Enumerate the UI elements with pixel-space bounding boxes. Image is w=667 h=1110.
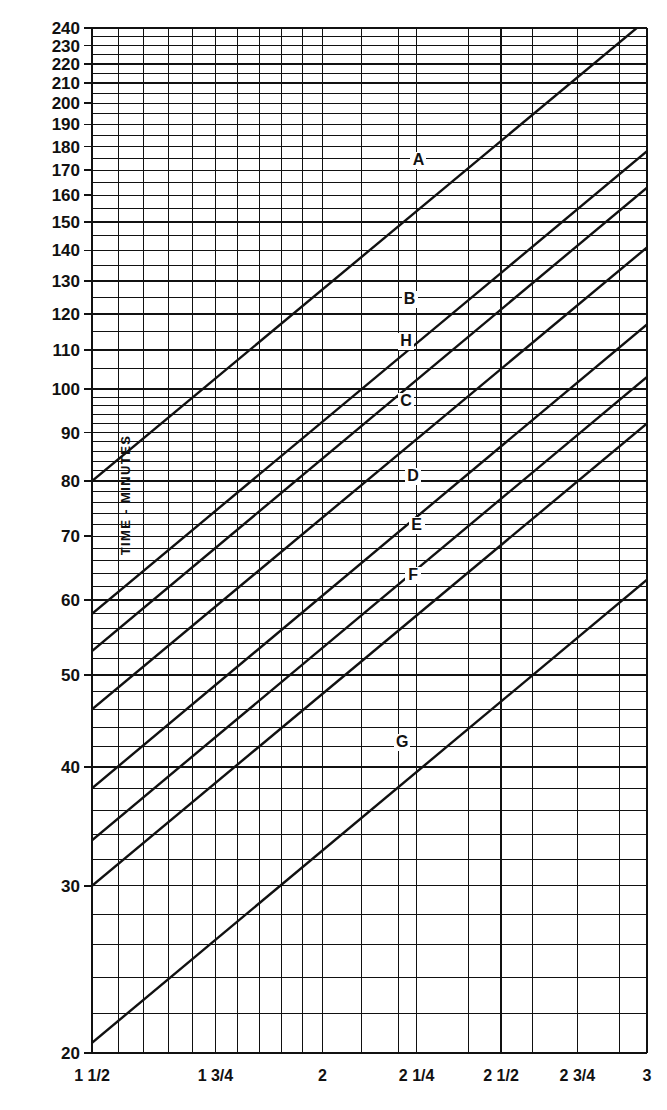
y-tick-label: 140 (52, 241, 80, 260)
y-axis: 2402302202102001901801701601501401301201… (52, 19, 92, 1063)
series-line-C (92, 247, 647, 709)
y-tick-label: 230 (52, 37, 80, 56)
y-tick-label: 50 (61, 666, 80, 685)
y-tick-label: 220 (52, 55, 80, 74)
y-tick-label: 90 (61, 424, 80, 443)
x-tick-label: 1 1/2 (74, 1067, 110, 1084)
series-label-E: E (411, 516, 422, 533)
chart-figure: 2402302202102001901801701601501401301201… (0, 0, 667, 1110)
series-label-B: B (404, 290, 416, 307)
y-tick-label: 60 (61, 591, 80, 610)
y-tick-label: 180 (52, 138, 80, 157)
y-tick-label: 40 (61, 758, 80, 777)
series-label-D: D (407, 467, 419, 484)
x-tick-label: 2 3/4 (560, 1067, 596, 1084)
y-tick-label: 20 (61, 1044, 80, 1063)
y-tick-label: 190 (52, 115, 80, 134)
series-label-C: C (400, 392, 412, 409)
y-tick-label: 70 (61, 527, 80, 546)
series-line-F (92, 424, 647, 886)
series-label-H: H (400, 332, 412, 349)
x-tick-label: 1 3/4 (198, 1067, 234, 1084)
series-group (92, 19, 647, 1042)
x-tick-label: 2 1/4 (399, 1067, 435, 1084)
y-tick-label: 200 (52, 94, 80, 113)
x-tick-label: 3 (643, 1067, 652, 1084)
y-tick-label: 150 (52, 213, 80, 232)
series-line-G (92, 580, 647, 1043)
series-line-B (92, 151, 647, 614)
series-line-D (92, 324, 647, 788)
y-tick-label: 80 (61, 472, 80, 491)
series-label-G: G (396, 733, 408, 750)
y-tick-label: 240 (52, 19, 80, 38)
y-tick-label: 210 (52, 74, 80, 93)
y-tick-label: 160 (52, 186, 80, 205)
series-line-H (92, 188, 647, 651)
x-tick-label: 2 1/2 (483, 1067, 519, 1084)
y-tick-label: 130 (52, 272, 80, 291)
series-label-A: A (413, 151, 425, 168)
y-tick-label: 30 (61, 877, 80, 896)
x-axis: 1 1/21 3/422 1/42 1/22 3/43 (74, 1067, 651, 1084)
series-line-E (92, 377, 647, 840)
gridlines (92, 28, 647, 1053)
plot-frame (92, 28, 647, 1053)
y-tick-label: 170 (52, 161, 80, 180)
y-tick-label: 100 (52, 380, 80, 399)
log-log-chart: 2402302202102001901801701601501401301201… (0, 0, 667, 1110)
x-tick-label: 2 (318, 1067, 327, 1084)
y-tick-label: 120 (52, 305, 80, 324)
series-label-F: F (408, 566, 418, 583)
y-tick-label: 110 (53, 341, 80, 360)
